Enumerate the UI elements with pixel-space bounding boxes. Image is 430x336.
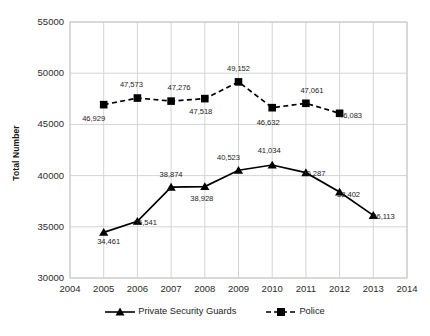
data-point-label: 41,034 bbox=[258, 147, 281, 155]
data-point-label: 49,152 bbox=[227, 65, 250, 73]
data-point-label: 47,276 bbox=[168, 84, 191, 92]
plot-area bbox=[0, 0, 430, 336]
legend-label: Police bbox=[299, 307, 324, 316]
square-marker-icon bbox=[266, 306, 296, 318]
data-point-label: 38,402 bbox=[337, 191, 360, 199]
legend-label: Private Security Guards bbox=[138, 307, 236, 316]
data-point-label: 34,461 bbox=[97, 238, 120, 246]
chart-legend: Private Security Guards Police bbox=[0, 306, 430, 318]
data-point-label: 40,287 bbox=[302, 170, 325, 178]
data-point-label: 46,929 bbox=[82, 115, 105, 123]
legend-item-police[interactable]: Police bbox=[266, 306, 324, 318]
data-point-label: 46,083 bbox=[339, 112, 362, 120]
data-point-label: 47,061 bbox=[300, 87, 323, 95]
data-point-label: 40,523 bbox=[217, 154, 240, 162]
data-point-label: 46,632 bbox=[257, 119, 280, 127]
data-point-label: 38,874 bbox=[160, 171, 183, 179]
line-chart: Total Number 300003500040000450005000055… bbox=[0, 0, 430, 336]
triangle-marker-icon bbox=[105, 306, 135, 318]
data-point-label: 35,541 bbox=[134, 219, 157, 227]
data-point-label: 36,113 bbox=[372, 213, 394, 221]
data-point-label: 47,518 bbox=[189, 108, 212, 116]
data-point-label: 47,573 bbox=[120, 81, 143, 89]
legend-item-private-security-guards[interactable]: Private Security Guards bbox=[105, 306, 236, 318]
data-point-label: 38,928 bbox=[190, 195, 213, 203]
